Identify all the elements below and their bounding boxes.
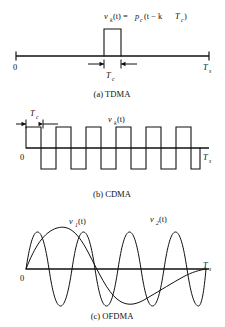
tdma-eq-arg-open: (t − k <box>144 12 163 21</box>
ofdma-v2-arg: (t) <box>159 215 167 224</box>
tdma-tc-arrow-left-head <box>100 62 105 67</box>
ofdma-v2-var: v <box>150 215 154 224</box>
tdma-eq-rhs-var: p <box>134 12 139 21</box>
ofdma-origin-label: 0 <box>20 274 24 283</box>
tdma-caption: (a) TDMA <box>94 89 132 99</box>
tdma-equation: v k (t) = p c (t − k T c ) <box>104 12 187 23</box>
panel-cdma: v k (t) T c 0 T s (b) CDMA <box>16 109 212 199</box>
ofdma-subcarrier-2-label: v 2 (t) <box>150 215 167 226</box>
tdma-pulse <box>104 29 121 56</box>
tdma-end-label-sub: s <box>209 68 212 74</box>
ofdma-subcarrier-1-curve <box>26 227 206 304</box>
cdma-tc-arrow-left-head <box>22 122 27 127</box>
multiple-access-figure: v k (t) = p c (t − k T c ) 0 T s <box>0 0 225 327</box>
ofdma-v1-var: v <box>69 217 73 226</box>
ofdma-subcarrier-1-label: v 1 (t) <box>69 217 86 228</box>
tdma-origin-label: 0 <box>13 63 17 72</box>
cdma-tc-arrow-right-head <box>39 122 44 127</box>
cdma-tc-dimension: T c <box>16 109 58 129</box>
panel-ofdma: v 1 (t) v 2 (t) 0 T s (c) OFDMA <box>20 215 212 321</box>
tdma-tc-dimension: T c <box>88 60 137 82</box>
tdma-tc-label-sub: c <box>112 76 115 82</box>
panel-tdma: v k (t) = p c (t − k T c ) 0 T s <box>13 12 212 99</box>
tdma-eq-lhs-var: v <box>104 12 108 21</box>
cdma-end-label-sub: s <box>209 158 212 164</box>
tdma-eq-arg-close: ) <box>184 12 187 21</box>
cdma-signal-label: v k (t) <box>108 115 125 126</box>
figure-canvas: v k (t) = p c (t − k T c ) 0 T s <box>0 0 225 327</box>
cdma-tc-label-sub: c <box>36 114 39 120</box>
ofdma-end-label-sub: s <box>209 266 212 272</box>
cdma-caption: (b) CDMA <box>93 189 132 199</box>
ofdma-v1-arg: (t) <box>78 217 86 226</box>
ofdma-caption: (c) OFDMA <box>91 311 135 321</box>
tdma-eq-lhs-arg: (t) = <box>113 12 128 21</box>
cdma-signal-arg: (t) <box>117 115 125 124</box>
cdma-signal-var: v <box>108 115 112 124</box>
cdma-origin-label: 0 <box>20 153 24 162</box>
tdma-eq-rhs-sub: c <box>140 17 143 23</box>
